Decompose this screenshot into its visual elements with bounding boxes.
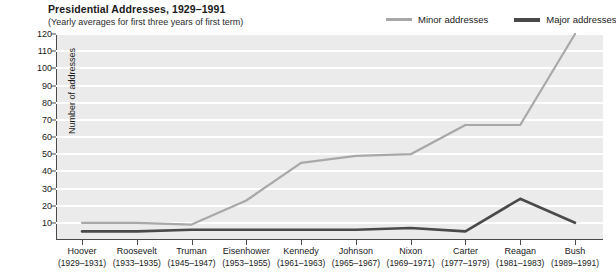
x-tick-label-name: Bush (565, 246, 586, 256)
x-tick-label-name: Carter (453, 246, 478, 256)
chart-plot-area: 102030405060708090100110120 Number of ad… (56, 34, 603, 240)
legend-label-minor: Minor addresses (418, 14, 488, 25)
x-tick-label-years: (1965–1967) (332, 257, 380, 269)
legend-label-major: Major addresses (546, 14, 616, 25)
x-tick-label-name: Johnson (339, 246, 373, 256)
x-tick-label: Eisenhower(1953–1955) (222, 245, 270, 269)
x-tick-label: Bush(1989–1991) (551, 245, 599, 269)
x-tick-label-years: (1969–1971) (387, 257, 435, 269)
x-tick-label-years: (1977–1979) (441, 257, 489, 269)
x-tick-label-years: (1945–1947) (167, 257, 215, 269)
x-tick-label: Johnson(1965–1967) (332, 245, 380, 269)
x-tick-label: Nixon(1969–1971) (387, 245, 435, 269)
series-line-major (82, 199, 575, 232)
x-tick-label-name: Reagan (504, 246, 536, 256)
page-subtitle: (Yearly averages for first three years o… (48, 17, 243, 27)
x-tick-label-name: Roosevelt (117, 246, 157, 256)
x-tick-label-name: Kennedy (283, 246, 319, 256)
x-tick-label: Hoover(1929–1931) (58, 245, 106, 269)
x-tick-label-name: Eisenhower (223, 246, 270, 256)
x-tick-label-years: (1989–1991) (551, 257, 599, 269)
series-line-minor (82, 34, 575, 225)
x-tick-label-name: Hoover (67, 246, 96, 256)
x-tick-label-name: Nixon (399, 246, 422, 256)
x-tick-label-years: (1961–1963) (277, 257, 325, 269)
x-axis-labels: Hoover(1929–1931)Roosevelt(1933–1935)Tru… (56, 245, 603, 277)
x-tick-label-years: (1981–1983) (496, 257, 544, 269)
series-lines (56, 34, 603, 240)
legend-swatch-minor-icon (386, 18, 412, 21)
chart-legend: Minor addresses Major addresses (386, 14, 616, 25)
x-tick-label-years: (1953–1955) (222, 257, 270, 269)
x-tick-label: Roosevelt(1933–1935) (113, 245, 161, 269)
y-tick-label: 120 (37, 29, 52, 39)
legend-item-minor: Minor addresses (386, 14, 488, 25)
y-tick-label: 110 (38, 46, 52, 56)
page-title: Presidential Addresses, 1929–1991 (48, 3, 225, 15)
x-tick-label: Kennedy(1961–1963) (277, 245, 325, 269)
legend-swatch-major-icon (514, 18, 540, 22)
x-tick-label: Reagan(1981–1983) (496, 245, 544, 269)
x-tick-label-name: Truman (176, 246, 207, 256)
x-tick-label: Carter(1977–1979) (441, 245, 489, 269)
legend-item-major: Major addresses (514, 14, 616, 25)
x-tick-label: Truman(1945–1947) (167, 245, 215, 269)
y-tick-label: 100 (37, 63, 52, 73)
x-tick-label-years: (1933–1935) (113, 257, 161, 269)
x-tick-label-years: (1929–1931) (58, 257, 106, 269)
